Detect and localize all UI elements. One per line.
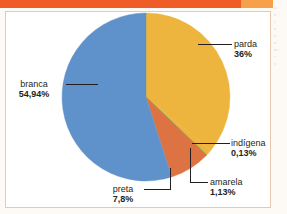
slice-label-branca-name: branca: [4, 79, 64, 89]
slice-label-branca: branca 54,94%: [4, 79, 64, 99]
slice-label-indigena-name: indígena: [231, 138, 266, 148]
leader-line-preta-stem: [170, 168, 171, 189]
slice-label-parda-name: parda: [234, 39, 257, 49]
pie-chart: [0, 0, 287, 214]
slice-label-branca-value: 54,94%: [4, 89, 64, 99]
leader-line-indigena-tail: [192, 143, 222, 144]
leader-line-amarela-stem: [190, 148, 191, 182]
slice-label-indigena-value: 0,13%: [231, 148, 266, 158]
leader-line-amarela-tail: [190, 182, 208, 183]
slice-label-amarela-name: amarela: [210, 177, 243, 187]
slice-label-parda-value: 36%: [234, 49, 257, 59]
leader-line-preta-tail: [144, 189, 171, 190]
figure-page: a n t e s o m r e parda 36% branca 54,94…: [0, 0, 287, 214]
pie-slice-group: [62, 13, 230, 181]
slice-label-indigena: indígena 0,13%: [231, 138, 266, 158]
slice-label-preta: preta 7,8%: [104, 184, 142, 204]
leader-line-parda: [198, 44, 232, 45]
slice-label-amarela: amarela 1,13%: [210, 177, 243, 197]
slice-label-amarela-value: 1,13%: [210, 187, 243, 197]
slice-label-preta-name: preta: [104, 184, 142, 194]
pie-svg: [0, 0, 287, 214]
slice-label-preta-value: 7,8%: [104, 194, 142, 204]
slice-label-parda: parda 36%: [234, 39, 257, 59]
leader-line-branca: [66, 84, 98, 85]
